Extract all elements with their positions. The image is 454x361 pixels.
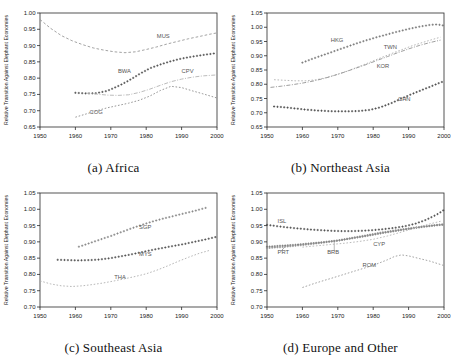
svg-text:1.05: 1.05	[251, 10, 263, 16]
svg-text:1950: 1950	[260, 313, 274, 319]
svg-text:2000: 2000	[437, 313, 451, 319]
y-axis-label: Relative Transition Against Elephant Eco…	[3, 15, 9, 126]
svg-text:0.80: 0.80	[24, 75, 36, 81]
series-label-COG: COG	[90, 109, 104, 115]
svg-text:1980: 1980	[367, 133, 381, 139]
svg-text:1970: 1970	[331, 133, 345, 139]
series-label-CPV: CPV	[182, 68, 194, 74]
series-label-BRB: BRB	[327, 249, 339, 255]
svg-text:1960: 1960	[69, 133, 83, 139]
series-HKG: HKG	[301, 23, 444, 63]
chart-northeast-asia: 0.650.700.750.800.850.900.951.001.051950…	[227, 0, 454, 158]
y-axis-label: Relative Transition Against Elephant Eco…	[230, 195, 236, 306]
svg-text:0.90: 0.90	[251, 53, 263, 59]
svg-text:1950: 1950	[33, 313, 47, 319]
svg-text:0.95: 0.95	[24, 26, 36, 32]
series-CYP: CYP	[302, 221, 440, 247]
svg-text:0.95: 0.95	[24, 223, 36, 229]
svg-text:1960: 1960	[69, 313, 83, 319]
svg-text:1950: 1950	[33, 133, 47, 139]
svg-text:0.75: 0.75	[24, 288, 36, 294]
svg-text:1990: 1990	[175, 133, 189, 139]
svg-text:1.00: 1.00	[24, 206, 36, 212]
svg-text:0.70: 0.70	[24, 108, 36, 114]
svg-text:0.95: 0.95	[251, 39, 263, 45]
svg-text:1960: 1960	[296, 313, 310, 319]
caption-europe-and-other: (d) Europe and Other	[227, 340, 454, 356]
caption-africa: (a) Africa	[0, 160, 227, 176]
chart-africa: 0.650.700.750.800.850.900.951.0019501960…	[0, 0, 227, 158]
chart-southeast-asia: 0.700.750.800.850.900.951.001.0519501960…	[0, 180, 227, 338]
svg-text:0.85: 0.85	[251, 255, 263, 261]
svg-text:1980: 1980	[367, 313, 381, 319]
svg-text:1.00: 1.00	[251, 24, 263, 30]
caption-southeast-asia: (c) Southeast Asia	[0, 340, 227, 356]
series-label-KOR: KOR	[377, 63, 390, 69]
series-BWA: BWA	[74, 52, 215, 94]
panel-africa: 0.650.700.750.800.850.900.951.0019501960…	[0, 0, 227, 180]
series-label-PRT: PRT	[278, 249, 290, 255]
svg-text:1960: 1960	[296, 133, 310, 139]
axes: 0.650.700.750.800.850.900.951.001.051950…	[251, 10, 452, 139]
series-PRT: PRT	[266, 224, 444, 255]
panel-europe-and-other: 0.700.750.800.850.900.951.001.0519501960…	[227, 180, 454, 360]
caption-northeast-asia: (b) Northeast Asia	[227, 160, 454, 176]
svg-text:0.80: 0.80	[251, 81, 263, 87]
svg-text:0.70: 0.70	[251, 304, 263, 310]
series-label-SGP: SGP	[139, 224, 151, 230]
y-axis-label: Relative Transition Against Elephant Eco…	[3, 195, 9, 306]
svg-text:0.70: 0.70	[24, 304, 36, 310]
svg-text:0.85: 0.85	[24, 255, 36, 261]
series-ROM: ROM	[302, 255, 444, 288]
svg-text:1990: 1990	[402, 313, 416, 319]
series-label-MYS: MYS	[139, 251, 152, 257]
chart-europe-and-other: 0.700.750.800.850.900.951.001.0519501960…	[227, 180, 454, 338]
svg-text:0.90: 0.90	[24, 239, 36, 245]
svg-text:0.80: 0.80	[251, 271, 263, 277]
series-KOR: KOR	[271, 40, 441, 87]
figure-four-panel-charts: 0.650.700.750.800.850.900.951.0019501960…	[0, 0, 454, 361]
svg-text:0.65: 0.65	[24, 124, 36, 130]
svg-text:0.75: 0.75	[24, 91, 36, 97]
series-MUS: MUS	[40, 20, 217, 53]
svg-text:1990: 1990	[175, 313, 189, 319]
svg-text:0.85: 0.85	[251, 67, 263, 73]
svg-text:0.95: 0.95	[251, 223, 263, 229]
series-COG: COG	[75, 86, 217, 117]
series-label-HKG: HKG	[331, 37, 344, 43]
svg-text:1970: 1970	[104, 313, 118, 319]
series-label-TWN: TWN	[384, 44, 397, 50]
svg-text:1990: 1990	[402, 133, 416, 139]
series-label-MUS: MUS	[157, 33, 170, 39]
svg-text:0.85: 0.85	[24, 59, 36, 65]
svg-text:1950: 1950	[260, 133, 274, 139]
svg-text:1.05: 1.05	[251, 190, 263, 196]
svg-text:1.05: 1.05	[24, 190, 36, 196]
svg-text:1.00: 1.00	[24, 10, 36, 16]
svg-text:0.65: 0.65	[251, 124, 263, 130]
series-SGP: SGP	[78, 207, 207, 248]
svg-text:1970: 1970	[104, 133, 118, 139]
svg-text:0.75: 0.75	[251, 288, 263, 294]
svg-text:1980: 1980	[140, 313, 154, 319]
y-axis-label: Relative Transition Against Elephant Eco…	[230, 15, 236, 126]
svg-text:1.00: 1.00	[251, 206, 263, 212]
series-label-ISL: ISL	[278, 218, 287, 224]
series-label-BWA: BWA	[118, 68, 131, 74]
svg-text:0.80: 0.80	[24, 271, 36, 277]
series-label-CYP: CYP	[373, 241, 385, 247]
svg-text:2000: 2000	[437, 133, 451, 139]
svg-text:2000: 2000	[210, 313, 224, 319]
svg-text:0.75: 0.75	[251, 96, 263, 102]
series-label-ROM: ROM	[363, 262, 377, 268]
svg-text:0.90: 0.90	[24, 43, 36, 49]
svg-text:1980: 1980	[140, 133, 154, 139]
series-label-CHN: CHN	[398, 96, 411, 102]
panel-northeast-asia: 0.650.700.750.800.850.900.951.001.051950…	[227, 0, 454, 180]
svg-text:1970: 1970	[331, 313, 345, 319]
series-CHN: CHN	[273, 81, 443, 113]
svg-text:0.90: 0.90	[251, 239, 263, 245]
svg-text:0.70: 0.70	[251, 110, 263, 116]
series-label-THA: THA	[114, 274, 126, 280]
series-MYS: MYS	[57, 236, 217, 262]
